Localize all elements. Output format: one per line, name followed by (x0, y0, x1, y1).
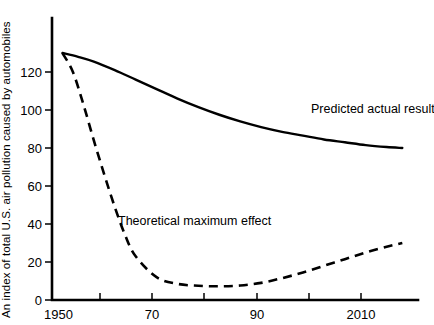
y-tick-label-120: 120 (20, 65, 42, 80)
chart-figure: An index of total U.S. air pollution cau… (0, 0, 434, 325)
series-theoretical-maximum-effect (62, 53, 402, 286)
y-tick-label-100: 100 (20, 103, 42, 118)
x-tick-label-2010: 2010 (347, 307, 376, 322)
series-predicted-actual-result (62, 53, 402, 148)
x-tick-label-1970: 70 (145, 307, 159, 322)
chart-plot-area: 0 20 40 60 80 100 120 1950 70 90 2010 (0, 0, 434, 325)
y-tick-label-60: 60 (28, 179, 42, 194)
x-tick-label-1950: 1950 (44, 307, 73, 322)
annotation-theoretical-maximum-effect: Theoretical maximum effect (118, 214, 272, 228)
y-tick-label-40: 40 (28, 217, 42, 232)
y-tick-label-0: 0 (35, 293, 42, 308)
y-tick-label-80: 80 (28, 141, 42, 156)
y-tick-label-20: 20 (28, 255, 42, 270)
x-tick-label-1990: 90 (250, 307, 264, 322)
x-axis-tick-labels: 1950 70 90 2010 (44, 307, 375, 322)
y-axis-tick-labels: 0 20 40 60 80 100 120 (20, 65, 42, 308)
chart-axes (52, 18, 418, 300)
annotation-predicted-actual-result: Predicted actual result (311, 102, 434, 116)
